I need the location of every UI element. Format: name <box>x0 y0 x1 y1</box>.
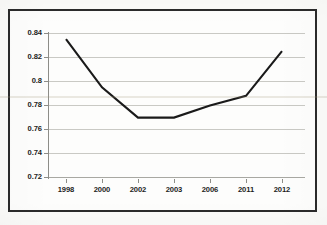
x-tick-label: 2003 <box>166 185 183 194</box>
y-tick-mark <box>44 81 48 82</box>
x-tick-mark <box>210 179 211 183</box>
gridline-0.82 <box>48 57 305 58</box>
line-chart-figure: 0.84 0.82 0.8 0.78 0.76 0.74 0.72 1998 2… <box>0 0 327 225</box>
x-tick-label: 2006 <box>202 185 219 194</box>
y-axis-line <box>48 32 49 179</box>
gridline-0.80 <box>48 81 305 82</box>
x-tick-mark <box>102 179 103 183</box>
x-tick-mark <box>282 179 283 183</box>
gridline-0.78 <box>48 105 305 106</box>
y-tick-mark <box>44 57 48 58</box>
y-tick-label: 0.82 <box>8 53 42 61</box>
x-tick-mark <box>246 179 247 183</box>
y-tick-mark <box>44 129 48 130</box>
y-tick-mark <box>44 33 48 34</box>
y-tick-label: 0.76 <box>8 125 42 133</box>
y-tick-mark <box>44 105 48 106</box>
y-axis-tick-labels: 0.84 0.82 0.8 0.78 0.76 0.74 0.72 <box>4 0 42 225</box>
gridline-0.74 <box>48 153 305 154</box>
gridline-0.84 <box>48 33 305 34</box>
plot-area <box>48 33 305 178</box>
gridline-0.72-baseline <box>48 177 305 178</box>
y-tick-label: 0.74 <box>8 149 42 157</box>
x-tick-mark <box>66 179 67 183</box>
x-tick-label: 2000 <box>94 185 111 194</box>
y-tick-label: 0.72 <box>8 173 42 181</box>
x-tick-mark <box>174 179 175 183</box>
x-tick-label: 1998 <box>58 185 75 194</box>
x-tick-label: 2012 <box>274 185 291 194</box>
y-tick-mark <box>44 177 48 178</box>
y-tick-label: 0.84 <box>8 29 42 37</box>
x-tick-mark <box>138 179 139 183</box>
x-tick-label: 2002 <box>130 185 147 194</box>
x-tick-label: 2011 <box>238 185 254 194</box>
gridline-0.76 <box>48 129 305 130</box>
y-tick-mark <box>44 153 48 154</box>
y-tick-label: 0.78 <box>8 101 42 109</box>
y-tick-label: 0.8 <box>8 77 42 85</box>
